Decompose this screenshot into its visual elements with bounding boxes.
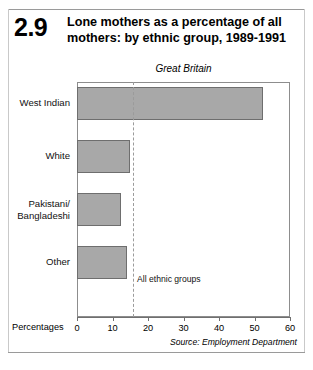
category-label: Pakistani/ Bangladeshi: [0, 193, 70, 221]
reference-line-label: All ethnic groups: [137, 274, 201, 284]
x-axis-tick-label: 10: [101, 323, 125, 333]
x-axis-tick-label: 0: [65, 323, 89, 333]
category-label: White: [0, 140, 70, 162]
bar: [77, 193, 121, 226]
x-axis-tick-label: 60: [278, 323, 302, 333]
category-label: Other: [0, 246, 70, 268]
bar: [77, 140, 130, 173]
figure-container: 2.9 Lone mothers as a percentage of all …: [0, 0, 313, 370]
x-axis: 0102030405060: [77, 317, 290, 318]
x-axis-tick: [219, 317, 220, 321]
bar-row: White: [77, 140, 290, 173]
x-axis-tick-label: 30: [172, 323, 196, 333]
bar-chart: West IndianWhitePakistani/ BangladeshiOt…: [77, 82, 290, 317]
x-axis-tick-label: 20: [136, 323, 160, 333]
bar-row: West Indian: [77, 87, 290, 120]
x-axis-tick: [290, 317, 291, 321]
x-axis-title: Percentages: [12, 322, 64, 332]
right-rule: [304, 9, 305, 353]
bottom-rule: [8, 352, 305, 353]
chart-subtitle: Great Britain: [77, 63, 290, 74]
figure-number: 2.9: [14, 13, 47, 41]
x-axis-tick: [77, 317, 78, 321]
bar-row: Pakistani/ Bangladeshi: [77, 193, 290, 226]
top-rule: [8, 9, 305, 10]
category-label: West Indian: [0, 87, 70, 109]
left-rule: [8, 9, 9, 353]
bar: [77, 87, 263, 120]
bar: [77, 246, 127, 279]
x-axis-tick: [113, 317, 114, 321]
x-axis-tick-label: 40: [207, 323, 231, 333]
x-axis-tick: [184, 317, 185, 321]
x-axis-tick-label: 50: [243, 323, 267, 333]
figure-title: Lone mothers as a percentage of all moth…: [67, 14, 307, 46]
figure-header: 2.9 Lone mothers as a percentage of all …: [14, 13, 304, 59]
x-axis-tick: [148, 317, 149, 321]
reference-line: [133, 82, 134, 317]
x-axis-tick: [255, 317, 256, 321]
source-note: Source: Employment Department: [170, 337, 297, 347]
